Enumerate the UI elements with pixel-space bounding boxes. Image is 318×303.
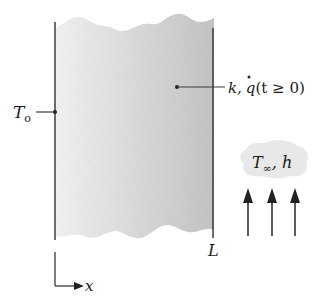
wall-diagram: To k,q(t ≥ 0) L x T∞, h: [0, 0, 318, 303]
fluid-cloud: T∞, h: [240, 140, 308, 178]
t0-label: To: [13, 102, 31, 125]
up-arrow-icon: [290, 188, 300, 236]
fluid-label: T∞, h: [252, 153, 292, 175]
t0-point: [53, 110, 57, 114]
q-dot-accent: [248, 76, 251, 79]
length-label: L: [207, 241, 219, 260]
convection-arrows: [243, 188, 300, 236]
x-axis: x: [55, 252, 94, 295]
x-axis-arrowhead-icon: [74, 282, 84, 290]
wall-region: [56, 14, 214, 239]
up-arrow-icon: [243, 188, 253, 236]
property-label: k,q(t ≥ 0): [228, 79, 305, 97]
up-arrow-icon: [267, 188, 277, 236]
x-axis-label: x: [85, 277, 94, 295]
